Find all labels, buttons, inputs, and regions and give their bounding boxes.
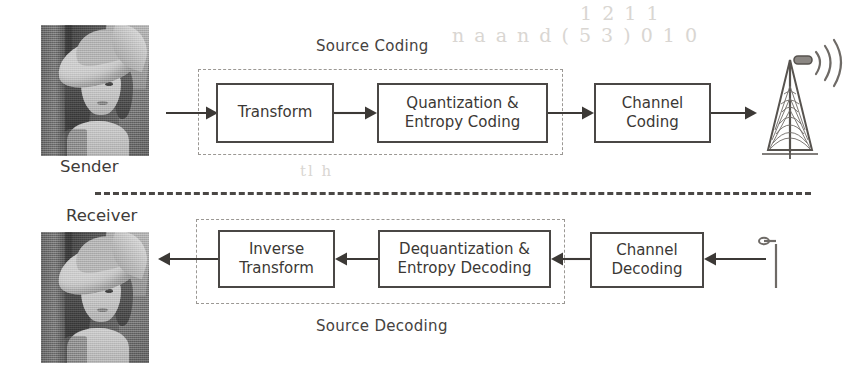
arrow-channel-decoding-to-dequantization <box>551 251 592 267</box>
transmit-tower-icon <box>758 32 858 160</box>
receiver-output-image <box>41 232 149 363</box>
source-decoding-group-label: Source Decoding <box>316 317 448 335</box>
block-dequantization-entropy-decoding-label: Dequantization & Entropy Decoding <box>398 240 532 278</box>
block-transform[interactable]: Transform <box>216 83 334 143</box>
arrow-antenna-to-channel-decoding <box>704 251 766 267</box>
block-channel-coding[interactable]: Channel Coding <box>594 83 711 143</box>
sender-label: Sender <box>60 157 119 176</box>
receiver-label: Receiver <box>66 206 137 225</box>
diagram-canvas: 1 2 1 1 n a a n d ( 5 3 ) 0 1 0 tl h Sen… <box>0 0 867 380</box>
arrow-inverse-transform-to-image <box>158 251 218 267</box>
sender-source-image <box>41 25 149 156</box>
receive-antenna-icon <box>758 232 802 292</box>
scan-artifact: n a a n d ( 5 3 ) 0 1 0 <box>452 24 699 46</box>
dashed-separator <box>95 192 811 195</box>
scan-artifact: 1 2 1 1 <box>580 2 660 24</box>
block-quantization-entropy-coding[interactable]: Quantization & Entropy Coding <box>377 83 548 143</box>
arrow-transform-to-quantization <box>334 105 379 121</box>
arrow-dequantization-to-inverse-transform <box>335 251 380 267</box>
block-inverse-transform[interactable]: Inverse Transform <box>218 230 335 288</box>
source-coding-group-label: Source Coding <box>316 37 429 55</box>
block-quantization-entropy-coding-label: Quantization & Entropy Coding <box>405 94 520 132</box>
arrow-quantization-to-channel-coding <box>548 105 596 121</box>
block-channel-decoding[interactable]: Channel Decoding <box>590 232 704 288</box>
arrow-channel-coding-to-tower <box>711 105 759 121</box>
block-transform-label: Transform <box>238 103 313 122</box>
block-dequantization-entropy-decoding[interactable]: Dequantization & Entropy Decoding <box>378 230 551 288</box>
arrow-image-to-transform <box>166 105 220 121</box>
block-channel-coding-label: Channel Coding <box>622 94 684 132</box>
block-channel-decoding-label: Channel Decoding <box>612 241 683 279</box>
block-inverse-transform-label: Inverse Transform <box>239 240 314 278</box>
scan-artifact: tl h <box>300 162 333 180</box>
